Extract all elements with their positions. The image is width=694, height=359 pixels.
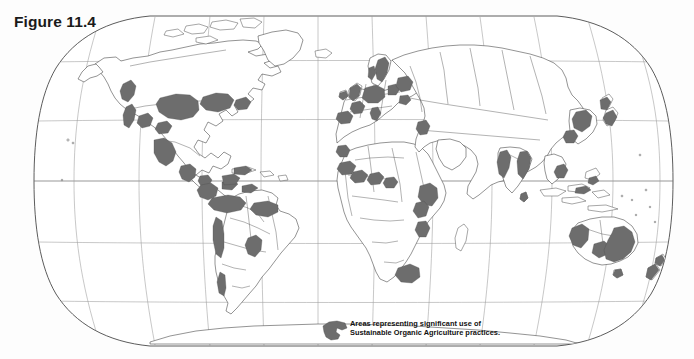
legend-label: Areas representing significant use of Su… — [350, 320, 500, 337]
legend-swatch-icon — [320, 319, 350, 341]
map-container — [0, 0, 694, 359]
page-title: Figure 11.4 — [14, 13, 96, 31]
world-map-svg — [0, 0, 694, 359]
map-legend: Areas representing significant use of Su… — [350, 320, 500, 337]
